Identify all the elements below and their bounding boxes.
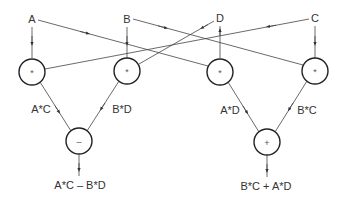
multiply-icon: *: [313, 67, 317, 77]
input-label-a: A: [28, 13, 36, 25]
label-b-times-c: B*C: [297, 104, 317, 116]
arrow-b-to-m4: [158, 26, 166, 28]
arrow-m2-to-sub: [101, 103, 105, 109]
multiply-icon: *: [30, 68, 34, 78]
label-a-times-c: A*C: [31, 103, 51, 115]
plus-icon: +: [264, 138, 269, 148]
input-label-b: B: [123, 13, 130, 25]
multiply-icon: *: [218, 68, 222, 78]
arrow-m4-to-add: [289, 103, 293, 110]
multiply-icon: *: [125, 67, 129, 77]
label-b-times-d: B*D: [112, 103, 132, 115]
add-node: +: [254, 129, 280, 155]
arrow-a-to-m3: [80, 31, 88, 33]
input-label-c: C: [311, 12, 319, 24]
arrow-d-to-m2: [202, 25, 208, 29]
arrow-m1-to-sub: [55, 106, 59, 112]
label-a-times-d: A*D: [220, 104, 240, 116]
output-label-real: A*C – B*D: [54, 179, 105, 191]
multiplier-node-3: *: [207, 59, 233, 85]
arrow-m3-to-add: [243, 106, 247, 113]
output-label-imag: B*C + A*D: [240, 180, 291, 192]
arrow-c-to-m1: [268, 25, 276, 27]
multiplier-node-4: *: [302, 58, 328, 84]
subtract-node: –: [66, 128, 92, 154]
input-label-d: D: [216, 12, 224, 24]
dataflow-diagram: A B D C * * * * A*C B*D A*D: [0, 0, 345, 207]
multiplier-node-1: *: [19, 59, 45, 85]
multiplier-node-2: *: [114, 58, 140, 84]
minus-icon: –: [76, 137, 81, 147]
